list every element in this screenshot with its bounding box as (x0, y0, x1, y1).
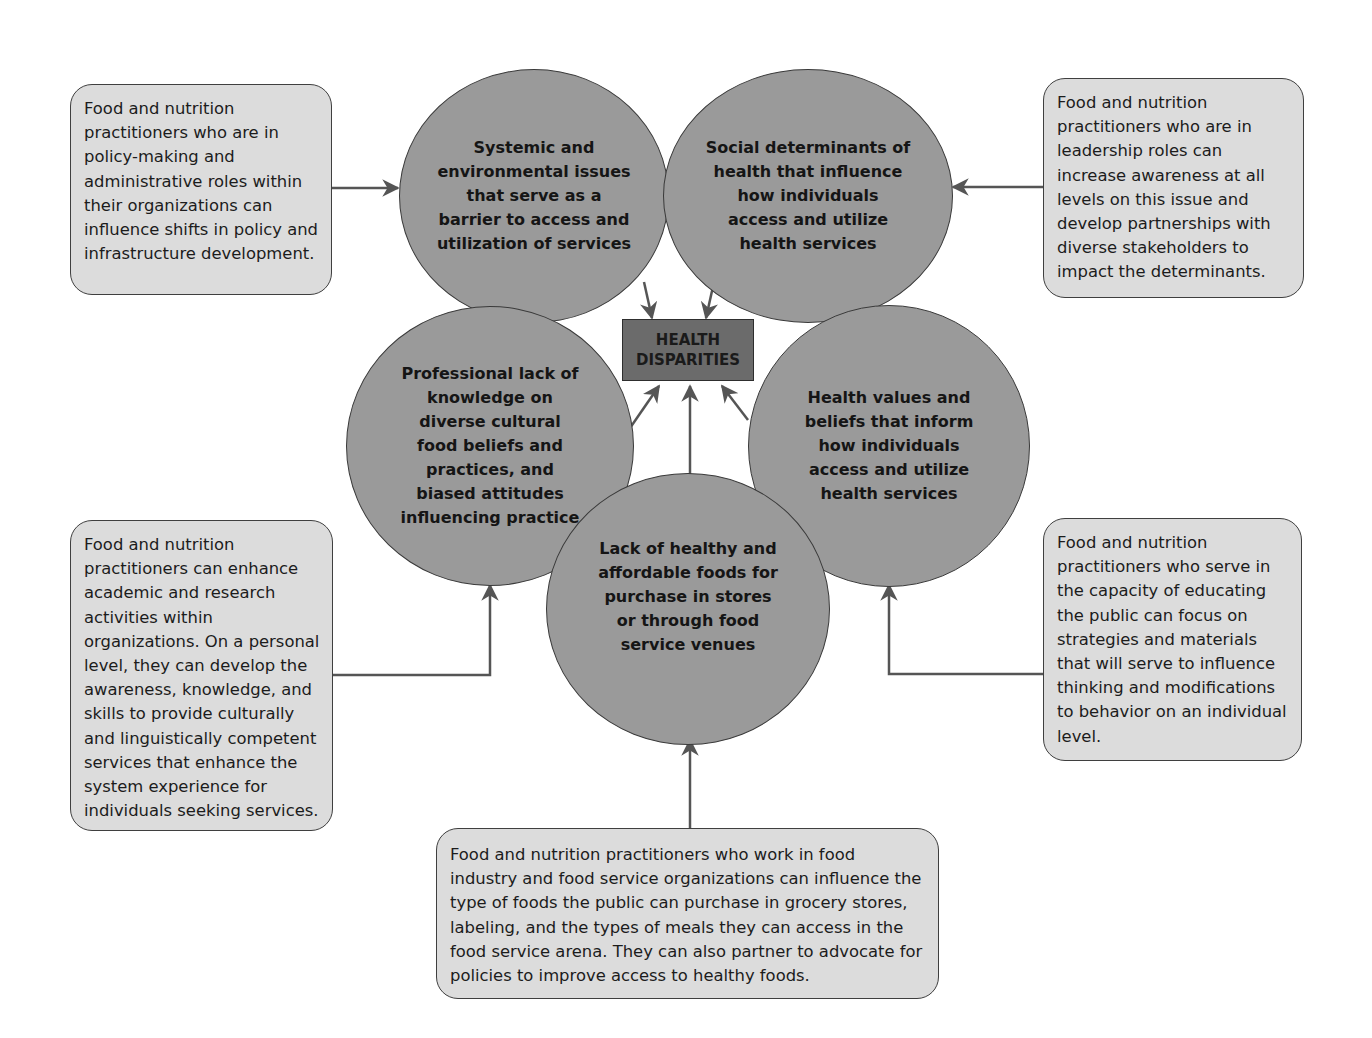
role-text: Food and nutrition practitioners who are… (1057, 93, 1271, 281)
factor-text: Lack of healthy and affordable foods for… (596, 537, 781, 657)
center-title-line2: DISPARITIES (636, 350, 740, 370)
role-box-policy: Food and nutrition practitioners who are… (70, 84, 332, 295)
factor-circle-systemic: Systemic and environmental issues that s… (399, 69, 669, 323)
factor-text: Systemic and environmental issues that s… (434, 136, 634, 256)
role-text: Food and nutrition practitioners who ser… (1057, 533, 1287, 746)
role-box-industry: Food and nutrition practitioners who wor… (436, 828, 939, 999)
role-text: Food and nutrition practitioners can enh… (84, 535, 319, 820)
health-disparities-box: HEALTH DISPARITIES (622, 319, 754, 381)
factor-circle-social: Social determinants of health that influ… (663, 69, 953, 323)
role-text: Food and nutrition practitioners who are… (84, 99, 318, 263)
center-title-line1: HEALTH (656, 330, 720, 350)
role-box-leadership: Food and nutrition practitioners who are… (1043, 78, 1304, 298)
role-text: Food and nutrition practitioners who wor… (450, 845, 922, 985)
health-disparities-diagram: Systemic and environmental issues that s… (0, 0, 1372, 1038)
factor-text: Social determinants of health that influ… (706, 136, 911, 256)
factor-circle-foods: Lack of healthy and affordable foods for… (546, 473, 830, 745)
factor-text: Health values and beliefs that inform ho… (804, 386, 974, 506)
role-box-academic: Food and nutrition practitioners can enh… (70, 520, 333, 831)
role-box-educating: Food and nutrition practitioners who ser… (1043, 518, 1302, 761)
factor-text: Professional lack of knowledge on divers… (400, 362, 580, 530)
